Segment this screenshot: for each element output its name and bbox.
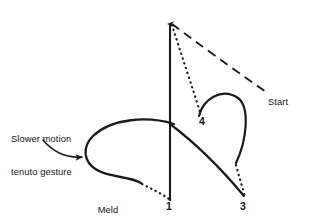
dotted-line-to-beat-4 <box>172 25 200 112</box>
beat-label-3: 3 <box>240 200 246 212</box>
beat-4-hook-curve <box>199 94 246 163</box>
beat-label-4: 4 <box>199 115 205 127</box>
gesture-diagram-figure: Slower motion tenuto gesture Start Meld … <box>0 0 310 221</box>
meld-dotted-tail <box>142 184 169 199</box>
annotation-meld: Meld “2” <box>85 183 131 221</box>
annotation-slower-motion-line1: Slower motion <box>11 134 72 145</box>
annotation-slower-motion-line2: tenuto gesture <box>11 167 72 178</box>
annotation-start: Start <box>268 97 288 108</box>
tenuto-loop-curve <box>86 120 174 183</box>
annotation-meld-line1: Meld <box>85 205 131 216</box>
beat-3-rebound-curve <box>170 124 244 196</box>
start-dashed-line <box>172 24 266 92</box>
annotation-slower-motion: Slower motion tenuto gesture <box>11 112 72 200</box>
beat-label-1: 1 <box>166 200 172 212</box>
